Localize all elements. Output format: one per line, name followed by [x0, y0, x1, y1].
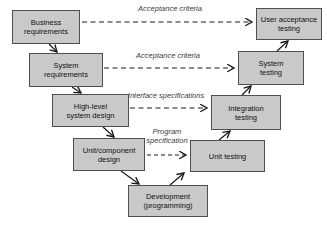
box-integration-testing: Integration testing	[211, 95, 281, 130]
box-unit-testing: Unit testing	[190, 140, 265, 172]
connector-label-interface-specifications: Interface specifications	[128, 91, 204, 100]
flow-arrow-unittesting-to-integration	[219, 131, 230, 140]
box-high-level-system-design: High-level system design	[52, 94, 129, 127]
flow-arrow-development-to-unittesting	[170, 173, 184, 185]
flow-arrow-systemtesting-to-uat	[277, 41, 288, 51]
flow-arrow-integration-to-systemtesting	[242, 86, 251, 95]
connector-label-acceptance-criteria-top: Acceptance criteria	[138, 4, 202, 13]
box-system-requirements: System requirements	[29, 53, 103, 87]
flow-arrow-unitcomponent-to-development	[121, 171, 139, 184]
box-business-requirements: Business requirements	[12, 10, 80, 44]
flow-arrow-highlevel-to-unitcomponent	[103, 127, 114, 137]
box-system-testing: System testing	[238, 51, 304, 85]
v-model-diagram: Business requirements System requirement…	[0, 0, 327, 225]
box-development-programming: Development (programming)	[128, 185, 208, 217]
box-user-acceptance-testing: User acceptance testing	[256, 8, 322, 40]
flow-arrow-system-to-highlevel	[72, 87, 81, 93]
connector-label-program-specification: Program specification	[146, 127, 187, 146]
box-unit-component-design: Unit/component design	[73, 138, 145, 171]
connector-label-acceptance-criteria-second: Acceptance criteria	[136, 51, 200, 60]
flow-arrow-business-to-system	[49, 44, 57, 52]
